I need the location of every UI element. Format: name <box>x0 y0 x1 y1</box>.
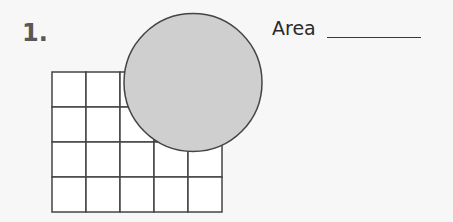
grid-cell <box>86 142 120 177</box>
grid-cell <box>188 177 222 212</box>
grid-circle-figure <box>0 0 453 222</box>
grid-cell <box>120 177 154 212</box>
grid-cell <box>52 142 86 177</box>
grid-cell <box>86 72 120 107</box>
overlapping-circle <box>124 14 262 152</box>
grid-cell <box>52 107 86 142</box>
grid-cell <box>120 142 154 177</box>
grid-cell <box>154 177 188 212</box>
grid-cell <box>86 107 120 142</box>
grid-cell <box>52 177 86 212</box>
grid-cell <box>52 72 86 107</box>
grid-cell <box>86 177 120 212</box>
